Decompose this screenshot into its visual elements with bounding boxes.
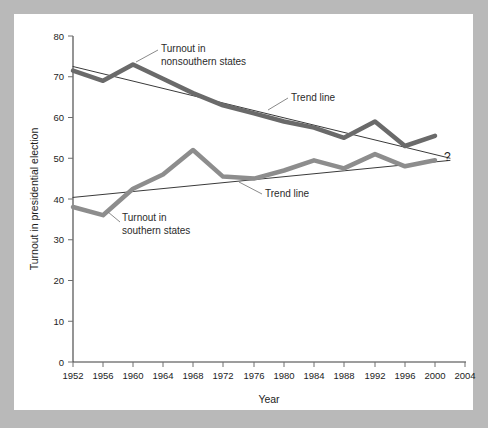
leader-line-southern (108, 212, 120, 222)
y-tick-label-50: 50 (53, 153, 64, 164)
x-tick-label-1988: 1988 (333, 370, 354, 381)
annotation-southern-line2: southern states (122, 225, 190, 236)
y-tick-label-40: 40 (53, 194, 64, 205)
x-tick-label-1956: 1956 (92, 370, 113, 381)
y-tick-label-60: 60 (53, 112, 64, 123)
x-tick-label-1972: 1972 (212, 370, 233, 381)
x-axis-title: Year (258, 393, 280, 405)
y-tick-label-0: 0 (59, 357, 64, 368)
annotation-trend-upper: Trend line (268, 92, 336, 110)
y-tick-label-30: 30 (53, 234, 64, 245)
x-tick-label-1996: 1996 (394, 370, 415, 381)
x-tick-label-1952: 1952 (62, 370, 83, 381)
leader-line-nonsouthern (136, 50, 158, 62)
x-tick-label-1984: 1984 (303, 370, 324, 381)
y-tick-label-70: 70 (53, 71, 64, 82)
y-tick-label-10: 10 (53, 316, 64, 327)
annotation-trend-upper-label: Trend line (291, 92, 336, 103)
series-southern (73, 150, 435, 215)
annotation-nonsouthern: Turnout in nonsouthern states (136, 43, 246, 67)
turnout-line-chart: 0 10 20 30 40 50 60 70 80 1952 1956 1960… (0, 0, 488, 428)
x-tick-label-1960: 1960 (122, 370, 143, 381)
y-axis-title: Turnout in presidential election (28, 128, 40, 271)
leader-line-trend-lower (239, 182, 262, 194)
x-tick-label-1976: 1976 (243, 370, 264, 381)
annotation-trend-lower-label: Trend line (265, 188, 310, 199)
annotation-southern: Turnout in southern states (108, 212, 190, 236)
trend-line-nonsouthern (73, 67, 450, 159)
annotation-nonsouthern-line1: Turnout in (161, 43, 206, 54)
y-tick-label-80: 80 (53, 31, 64, 42)
x-tick-label-1980: 1980 (273, 370, 294, 381)
x-tick-label-2004: 2004 (454, 370, 475, 381)
leader-line-trend-upper (268, 98, 288, 110)
future-question-mark: ? (444, 150, 451, 164)
x-tick-label-2000: 2000 (424, 370, 445, 381)
x-tick-label-1968: 1968 (182, 370, 203, 381)
annotation-southern-line1: Turnout in (122, 212, 167, 223)
annotation-nonsouthern-line2: nonsouthern states (161, 56, 246, 67)
x-tick-group: 1952 1956 1960 1964 1968 1972 1976 1980 … (62, 362, 475, 381)
series-nonsouthern (73, 65, 435, 147)
x-tick-label-1992: 1992 (364, 370, 385, 381)
y-tick-label-20: 20 (53, 275, 64, 286)
annotation-trend-lower: Trend line (239, 182, 310, 199)
x-tick-label-1964: 1964 (152, 370, 173, 381)
y-tick-group: 0 10 20 30 40 50 60 70 80 (53, 31, 73, 368)
